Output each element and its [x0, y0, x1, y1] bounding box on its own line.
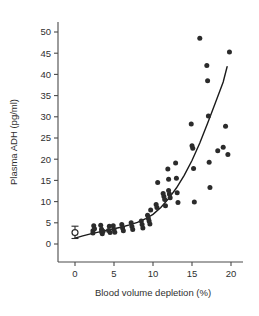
data-point — [206, 113, 211, 118]
y-axis-tick-label: 0 — [46, 238, 51, 249]
baseline-marker-group — [72, 226, 79, 238]
data-point — [189, 122, 194, 127]
data-point — [165, 166, 170, 171]
data-point — [227, 49, 232, 54]
data-point — [191, 166, 196, 171]
scatter-plot-svg: 0510152025303540455005101520Blood volume… — [0, 0, 259, 316]
data-point — [207, 160, 212, 165]
x-axis-tick-label: 0 — [72, 268, 77, 279]
x-axis-tick-label: 10 — [148, 268, 159, 279]
y-axis-tick-label: 25 — [40, 132, 51, 143]
data-point — [173, 161, 178, 166]
x-axis-tick-label: 15 — [187, 268, 198, 279]
y-axis-tick-label: 15 — [40, 175, 51, 186]
x-axis-tick-label: 5 — [111, 268, 116, 279]
data-point — [225, 152, 230, 157]
data-point — [130, 227, 135, 232]
data-point — [92, 226, 97, 231]
data-point — [190, 146, 195, 151]
data-point — [112, 230, 117, 235]
x-axis-title: Blood volume depletion (%) — [95, 287, 211, 298]
y-axis-tick-label: 30 — [40, 111, 51, 122]
y-axis-tick-label: 50 — [40, 26, 51, 37]
data-point — [148, 208, 153, 213]
y-axis-title: Plasma ADH (pg/ml) — [8, 99, 19, 185]
y-axis-tick-label: 45 — [40, 48, 51, 59]
data-point — [101, 229, 106, 234]
data-point — [175, 190, 180, 195]
axes-group — [54, 22, 243, 266]
y-axis-tick-label: 10 — [40, 196, 51, 207]
data-point — [175, 200, 180, 205]
data-point — [197, 36, 202, 41]
data-point — [192, 200, 197, 205]
data-point — [223, 124, 228, 129]
data-point — [147, 222, 152, 227]
data-point — [205, 78, 210, 83]
y-axis-tick-label: 35 — [40, 90, 51, 101]
data-point — [121, 228, 126, 233]
data-point — [221, 145, 226, 150]
axis-labels-group: 0510152025303540455005101520Blood volume… — [8, 26, 236, 298]
chart-figure: 0510152025303540455005101520Blood volume… — [0, 0, 259, 316]
data-point — [168, 195, 173, 200]
y-axis-tick-label: 20 — [40, 154, 51, 165]
data-point — [204, 63, 209, 68]
baseline-mean-marker — [72, 230, 78, 236]
data-point — [163, 203, 168, 208]
data-point — [155, 180, 160, 185]
data-point — [162, 197, 167, 202]
data-point — [215, 148, 220, 153]
data-point — [174, 176, 179, 181]
y-axis-tick-label: 40 — [40, 69, 51, 80]
y-axis-tick-label: 5 — [46, 217, 51, 228]
data-point — [207, 185, 212, 190]
data-point — [166, 177, 171, 182]
data-point — [140, 225, 145, 230]
x-axis-tick-label: 20 — [226, 268, 237, 279]
data-point — [154, 205, 159, 210]
